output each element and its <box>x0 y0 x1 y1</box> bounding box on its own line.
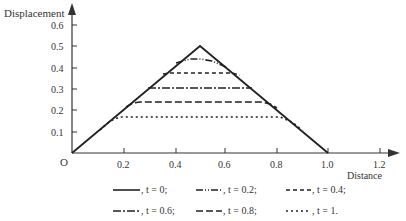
svg-text:0.2: 0.2 <box>117 159 130 170</box>
svg-text:1.2: 1.2 <box>373 159 386 170</box>
series-t0.4 <box>163 73 240 75</box>
svg-text:, t = 0.6;: , t = 0.6; <box>141 205 175 216</box>
x-ticks: 0.2 0.4 0.6 0.8 1.0 1.2 <box>117 148 386 170</box>
legend: , t = 0; , t = 0.2; , t = 0.4; , t = 0.6… <box>113 184 346 216</box>
svg-text:, t = 0.4;: , t = 0.4; <box>312 184 346 195</box>
y-axis-label: Displacement <box>4 7 64 19</box>
displacement-chart: Displacement Distance O 0.1 0.2 0.3 0.4 … <box>0 0 406 221</box>
y-axis-arrow-icon <box>68 3 76 15</box>
svg-text:0.8: 0.8 <box>270 159 283 170</box>
svg-text:0.4: 0.4 <box>169 159 182 170</box>
y-ticks: 0.1 0.2 0.3 0.4 0.5 0.6 <box>51 20 77 138</box>
series-t0 <box>72 46 328 153</box>
svg-text:0.2: 0.2 <box>51 105 64 116</box>
svg-text:0.6: 0.6 <box>218 159 231 170</box>
svg-text:0.3: 0.3 <box>51 84 64 95</box>
svg-text:, t = 0;: , t = 0; <box>141 184 167 195</box>
svg-text:0.1: 0.1 <box>51 127 64 138</box>
series-t0.8 <box>126 102 277 108</box>
chart-figure: Displacement Distance O 0.1 0.2 0.3 0.4 … <box>0 0 406 221</box>
svg-text:, t = 0.8;: , t = 0.8; <box>223 205 257 216</box>
svg-text:1.0: 1.0 <box>321 159 334 170</box>
svg-text:0.5: 0.5 <box>51 41 64 52</box>
svg-text:0.4: 0.4 <box>51 63 64 74</box>
x-axis-arrow-icon <box>388 149 400 157</box>
svg-text:, t = 1.: , t = 1. <box>312 205 338 216</box>
svg-text:0.6: 0.6 <box>51 20 64 31</box>
svg-text:, t = 0.2;: , t = 0.2; <box>223 184 257 195</box>
origin-label: O <box>60 156 68 168</box>
series-t1 <box>100 117 302 130</box>
x-axis-label: Distance <box>347 170 383 181</box>
